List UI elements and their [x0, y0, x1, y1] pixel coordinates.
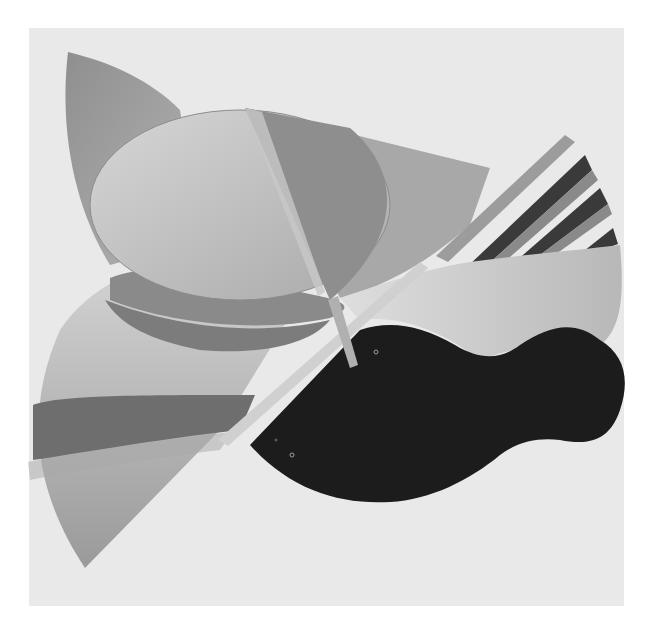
black-blob — [250, 325, 625, 502]
rivet — [275, 439, 278, 442]
sculpture-drawing — [0, 0, 653, 622]
